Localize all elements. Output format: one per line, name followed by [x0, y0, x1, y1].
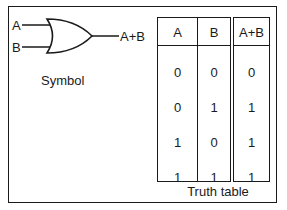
cell: 1 [198, 170, 230, 185]
cell: 1 [158, 170, 197, 185]
column-a: A 0 0 1 1 [157, 17, 198, 182]
header-a: A [158, 25, 197, 40]
input-b-label: B [12, 41, 21, 54]
cell: 0 [234, 65, 269, 80]
header-b: B [198, 25, 230, 40]
truth-table: A 0 0 1 1 B 0 1 0 1 A+B 0 1 1 1 [157, 17, 270, 182]
cell: 0 [158, 65, 197, 80]
column-b: B 0 1 0 1 [197, 17, 231, 182]
cell: 1 [234, 170, 269, 185]
cell: 0 [198, 135, 230, 150]
input-a-label: A [12, 19, 21, 32]
cell: 1 [158, 135, 197, 150]
cell: 0 [158, 100, 197, 115]
cell: 0 [198, 65, 230, 80]
cell: 1 [234, 135, 269, 150]
header-a-plus-b: A+B [234, 25, 269, 40]
symbol-caption: Symbol [41, 73, 84, 88]
truth-table-caption: Truth table [163, 184, 273, 199]
cell: 1 [234, 100, 269, 115]
output-label: A+B [120, 30, 145, 43]
cell: 1 [198, 100, 230, 115]
column-a-plus-b: A+B 0 1 1 1 [233, 17, 270, 182]
